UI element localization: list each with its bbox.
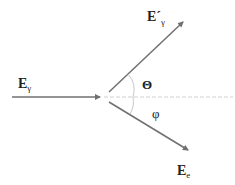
theta-label: Θ	[142, 77, 152, 92]
phi-label: φ	[152, 106, 160, 121]
theta-arc	[128, 74, 134, 97]
compton-diagram: Eγ E´γ Θ φ Ee	[0, 0, 235, 185]
incident-photon-label: Eγ	[18, 76, 31, 93]
scattered-photon-label: E´γ	[147, 9, 165, 27]
electron-label: Ee	[177, 163, 190, 180]
electron-arrow	[109, 102, 188, 150]
phi-arc	[130, 97, 133, 114]
